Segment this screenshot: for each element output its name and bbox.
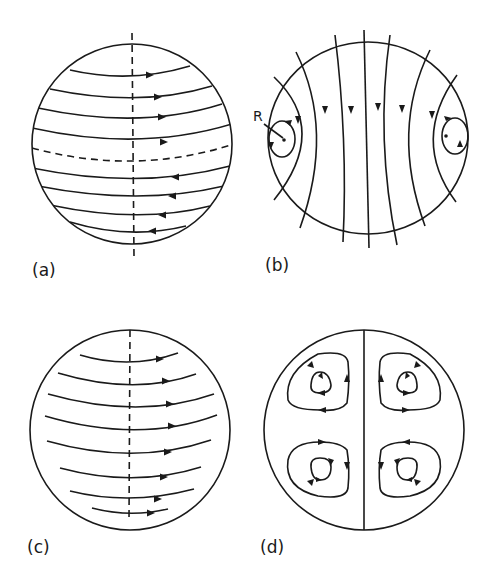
annotation-r: R bbox=[253, 108, 263, 124]
panel-label-a: (a) bbox=[32, 260, 56, 280]
arrow-icon bbox=[318, 407, 326, 413]
field-line bbox=[433, 75, 457, 202]
arrow-icon bbox=[317, 390, 325, 396]
arrow-icon bbox=[307, 361, 314, 368]
arrow-icon bbox=[402, 407, 410, 413]
arrow-icon bbox=[402, 439, 410, 445]
rotation-axis bbox=[129, 330, 130, 522]
panel-a bbox=[32, 33, 234, 257]
arrow-icon bbox=[318, 439, 326, 445]
cell-inner-lower-right bbox=[397, 458, 417, 480]
arrow-east-icon bbox=[147, 510, 155, 517]
panel-label-c: (c) bbox=[27, 537, 50, 557]
arrow-down-icon bbox=[322, 106, 328, 114]
field-line bbox=[409, 50, 430, 226]
arrow-east-icon bbox=[162, 378, 170, 385]
arrow-west-icon bbox=[168, 193, 176, 200]
streamlines bbox=[45, 353, 217, 513]
arrow-down-icon bbox=[399, 105, 405, 113]
streamlines-south bbox=[32, 166, 230, 232]
arrow-east-icon bbox=[154, 94, 162, 101]
arrow-icon bbox=[307, 479, 314, 486]
cell-inner-lower-left bbox=[311, 458, 331, 480]
panel-label-d: (d) bbox=[260, 537, 284, 557]
central-field-line bbox=[364, 30, 369, 248]
field-line bbox=[384, 35, 397, 245]
cell-outer-upper-left bbox=[288, 353, 349, 410]
arrow-east-icon bbox=[156, 356, 164, 363]
closed-loop-left bbox=[269, 121, 295, 157]
arrow-east-icon bbox=[168, 423, 176, 430]
arrow-down-icon bbox=[429, 111, 435, 119]
arrow-icon bbox=[403, 390, 411, 396]
cell-outer-upper-right bbox=[379, 353, 440, 410]
arrow-west-icon bbox=[158, 212, 166, 219]
panel-c bbox=[30, 330, 230, 530]
arrow-east-icon bbox=[166, 401, 174, 408]
arrow-west-icon bbox=[148, 228, 156, 235]
arrow-icon bbox=[414, 479, 421, 486]
panel-label-b: (b) bbox=[265, 255, 289, 275]
cell-outer-lower-right bbox=[379, 442, 440, 497]
arrow-east-icon bbox=[158, 114, 166, 121]
arrow-east-icon bbox=[146, 72, 154, 79]
field-line bbox=[296, 52, 317, 228]
arrow-down-icon bbox=[348, 106, 354, 114]
panel-b bbox=[264, 30, 468, 248]
panel-d bbox=[264, 330, 464, 530]
arrow-icon bbox=[414, 361, 421, 368]
arrow-east-icon bbox=[160, 139, 168, 146]
loop-center-dot bbox=[282, 138, 286, 142]
arrow-west-icon bbox=[171, 174, 179, 181]
arrow-down-icon bbox=[375, 103, 381, 111]
cell-outer-lower-left bbox=[288, 442, 349, 497]
figure-canvas bbox=[0, 0, 491, 566]
arrow-icon bbox=[457, 140, 463, 147]
field-line bbox=[335, 35, 344, 242]
loop-center-dot bbox=[444, 134, 448, 138]
streamlines-north bbox=[32, 66, 232, 139]
rotation-axis bbox=[132, 33, 134, 257]
